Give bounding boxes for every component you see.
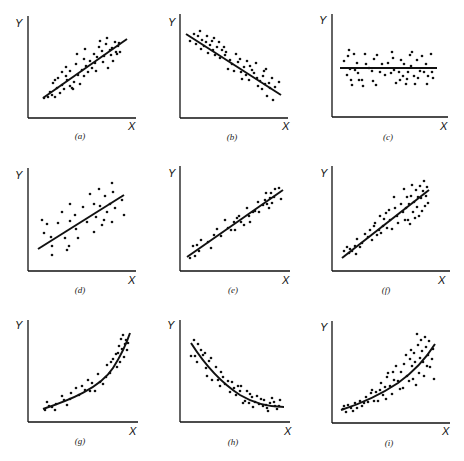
x-axis-label: X: [282, 275, 289, 286]
trend-line: [187, 190, 283, 257]
panel-c: Y X (c): [300, 0, 450, 150]
panel-f: Y X (f): [300, 150, 450, 300]
trend-line: [186, 34, 281, 95]
x-axis-label: X: [282, 121, 289, 132]
panel-i: Y X (i): [300, 300, 450, 450]
axes: [180, 166, 290, 271]
panel-caption: (g): [75, 437, 86, 446]
axes: [332, 14, 448, 117]
y-axis-label: Y: [320, 322, 327, 333]
panel-caption: (b): [227, 133, 238, 142]
x-axis-label: X: [128, 121, 135, 132]
panel-caption: (c): [383, 133, 393, 142]
panel-caption: (d): [75, 286, 86, 295]
x-axis-label: X: [128, 275, 135, 286]
data-points: [44, 334, 130, 412]
panel-caption: (a): [75, 132, 86, 141]
panel-h: Y X (h): [150, 300, 300, 450]
panel-b: Y X (b): [150, 0, 300, 150]
y-axis-label: Y: [319, 15, 326, 26]
panel-d: Y X (d): [0, 150, 150, 300]
data-points: [343, 180, 430, 256]
panel-caption: (f): [382, 286, 391, 295]
x-axis-label: X: [442, 426, 449, 437]
x-axis-label: X: [284, 426, 291, 437]
x-axis-label: X: [440, 121, 447, 132]
y-axis-label: Y: [168, 17, 175, 28]
y-axis-label: Y: [320, 168, 327, 179]
panel-caption: (e): [228, 286, 238, 295]
y-axis-label: Y: [15, 170, 22, 181]
y-axis-label: Y: [15, 18, 22, 29]
panel-caption: (h): [228, 438, 239, 447]
axes: [28, 168, 136, 271]
y-axis-label: Y: [15, 320, 22, 331]
data-points: [190, 339, 282, 413]
y-axis-label: Y: [167, 320, 174, 331]
x-axis-label: X: [129, 426, 136, 437]
panel-e: Y X (e): [150, 150, 300, 300]
x-axis-label: X: [438, 275, 445, 286]
panel-caption: (i): [385, 439, 394, 448]
data-points: [342, 333, 436, 414]
scatter-diagram-grid: Y X (a) Y X (b) Y X (c: [0, 0, 464, 461]
axes: [28, 320, 138, 422]
trend-line: [342, 190, 429, 258]
y-axis-label: Y: [168, 168, 175, 179]
panel-g: Y X (g): [0, 300, 150, 450]
trend-curve: [43, 333, 130, 409]
data-points: [41, 182, 126, 257]
panel-a: Y X (a): [0, 0, 150, 150]
axes: [28, 16, 136, 118]
